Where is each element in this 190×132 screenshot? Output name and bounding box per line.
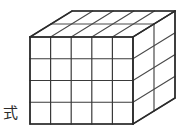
cube-grid-illustration (0, 0, 190, 132)
cube-geometry (30, 11, 175, 124)
figure-annotation-label: 式 (3, 101, 27, 125)
figure-canvas: 式 (0, 0, 190, 132)
